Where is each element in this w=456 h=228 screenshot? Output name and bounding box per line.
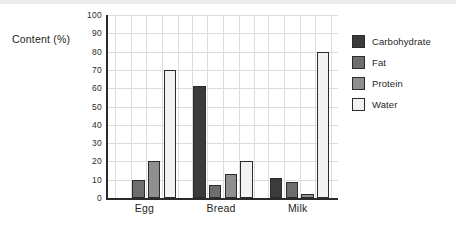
y-tick-label: 50: [76, 102, 102, 112]
y-tick-label: 20: [76, 156, 102, 166]
y-tick-label: 70: [76, 65, 102, 75]
chart-legend: CarbohydrateFatProteinWater: [352, 31, 452, 115]
bar: [270, 178, 283, 198]
y-tick-label: 80: [76, 47, 102, 57]
top-edge-band: [0, 0, 456, 4]
x-category-label: Bread: [206, 202, 235, 214]
bar: [132, 180, 145, 198]
x-axis-category-labels: EggBreadMilk: [106, 202, 336, 222]
legend-label: Carbohydrate: [372, 36, 431, 47]
legend-item: Fat: [352, 52, 452, 73]
bar: [225, 174, 238, 198]
bar: [148, 161, 161, 198]
legend-swatch-icon: [352, 35, 365, 48]
plot-area: [106, 15, 338, 200]
bar: [164, 70, 177, 198]
bar: [301, 194, 314, 198]
x-category-label: Egg: [135, 202, 154, 214]
y-tick-label: 0: [76, 193, 102, 203]
legend-item: Water: [352, 94, 452, 115]
y-tick-label: 100: [76, 10, 102, 20]
legend-label: Water: [372, 99, 397, 110]
legend-swatch-icon: [352, 56, 365, 69]
x-category-label: Milk: [288, 202, 307, 214]
y-tick-label: 90: [76, 28, 102, 38]
bars-layer: [108, 15, 338, 198]
y-tick-label: 40: [76, 120, 102, 130]
legend-swatch-icon: [352, 98, 365, 111]
y-tick-label: 30: [76, 138, 102, 148]
legend-label: Protein: [372, 78, 403, 89]
bar: [317, 52, 330, 198]
legend-item: Carbohydrate: [352, 31, 452, 52]
bar: [240, 161, 253, 198]
y-tick-label: 60: [76, 83, 102, 93]
legend-swatch-icon: [352, 77, 365, 90]
legend-label: Fat: [372, 57, 386, 68]
bar-chart-figure: Content (%) 0102030405060708090100 EggBr…: [0, 0, 456, 228]
legend-item: Protein: [352, 73, 452, 94]
bar: [209, 185, 222, 198]
bar: [286, 182, 299, 198]
y-tick-label: 10: [76, 175, 102, 185]
y-axis-tick-labels: 0102030405060708090100: [74, 15, 102, 198]
bar: [193, 86, 206, 198]
